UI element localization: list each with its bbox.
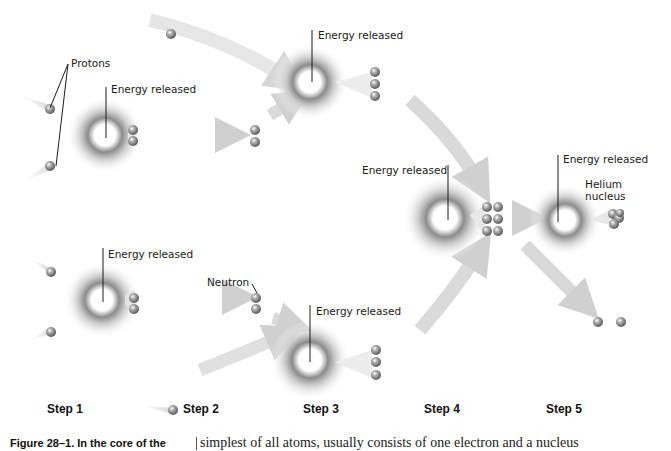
caption-divider	[196, 437, 197, 450]
body-text: simplest of all atoms, usually consists …	[200, 435, 579, 451]
label-energy-released: Energy released	[318, 29, 403, 41]
step-4-label: Step 4	[424, 401, 460, 416]
step-3-label: Step 3	[303, 401, 339, 416]
label-energy-released: Energy released	[563, 153, 648, 165]
fusion-diagram: Protons Energy released Energy released …	[0, 0, 671, 451]
label-helium: Helium	[585, 178, 622, 190]
step-5-label: Step 5	[546, 401, 582, 416]
label-protons: Protons	[71, 57, 110, 69]
step-1-label: Step 1	[47, 401, 83, 416]
label-energy-released: Energy released	[108, 248, 193, 260]
label-nucleus: nucleus	[585, 190, 626, 202]
label-energy-released: Energy released	[362, 164, 447, 176]
label-neutron: Neutron	[207, 276, 249, 288]
label-energy-released: Energy released	[111, 83, 196, 95]
figure-caption: Figure 28–1. In the core of the	[10, 437, 166, 449]
label-energy-released: Energy released	[316, 305, 401, 317]
step-2-label: Step 2	[183, 401, 219, 416]
curved-arrow	[420, 250, 480, 330]
